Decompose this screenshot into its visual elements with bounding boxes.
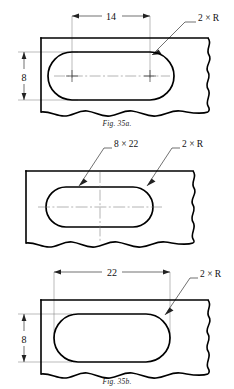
note-2xR-group: 2 × R bbox=[147, 139, 204, 186]
arrowhead-right-icon bbox=[163, 270, 170, 275]
figure-35a-drawing: 14 2 × R 8 bbox=[0, 0, 234, 130]
dimension-22-label: 22 bbox=[107, 267, 117, 278]
arrowhead-bottom-icon bbox=[22, 93, 27, 100]
dimension-8-group: 8 bbox=[17, 314, 72, 362]
leader-arrowhead-icon bbox=[165, 308, 174, 316]
break-line-bottom bbox=[41, 373, 208, 378]
arrowhead-top-icon bbox=[22, 52, 27, 59]
figure-35b-drawing: 8 × 22 2 × R bbox=[0, 130, 234, 258]
plate-outline bbox=[41, 38, 210, 116]
note-2xR-group: 2 × R bbox=[152, 13, 220, 55]
arrowhead-right-icon bbox=[143, 14, 150, 19]
dimension-8-label: 8 bbox=[22, 334, 27, 345]
dimension-22-group: 22 bbox=[54, 265, 170, 338]
break-line-right bbox=[207, 38, 210, 112]
figure-35c: 22 2 × R 8 bbox=[0, 258, 234, 389]
dimension-14-group: 14 bbox=[72, 9, 150, 78]
break-line-bottom bbox=[41, 111, 208, 116]
arrowhead-left-icon bbox=[54, 270, 61, 275]
note-2xR-label: 2 × R bbox=[200, 269, 222, 279]
figure-35a-caption: Fig. 35a. bbox=[0, 119, 234, 128]
note-2xR-label: 2 × R bbox=[182, 139, 204, 149]
dimension-14-label: 14 bbox=[106, 11, 116, 22]
drawing-sheet: 14 2 × R 8 bbox=[0, 0, 234, 389]
note-2xR-label: 2 × R bbox=[198, 13, 220, 23]
slot-obround-path bbox=[54, 314, 170, 362]
plate-outline bbox=[41, 300, 210, 378]
leader-arrowhead-icon bbox=[79, 179, 88, 187]
plate-outline bbox=[26, 171, 195, 247]
break-line-right bbox=[192, 171, 195, 243]
note-2xR-group: 2 × R bbox=[165, 269, 222, 315]
dimension-8-label: 8 bbox=[22, 72, 27, 83]
figure-35b: 8 × 22 2 × R bbox=[0, 130, 234, 258]
note-8x22-label: 8 × 22 bbox=[114, 139, 139, 149]
centerline-group bbox=[38, 172, 162, 242]
arrowhead-top-icon bbox=[22, 314, 27, 321]
note-8x22-group: 8 × 22 bbox=[79, 139, 139, 186]
figure-35c-drawing: 22 2 × R 8 bbox=[0, 258, 234, 389]
leader-arrowhead-icon bbox=[147, 179, 156, 187]
centerline-group bbox=[54, 70, 170, 82]
break-line-right bbox=[207, 300, 210, 374]
slot-outline bbox=[54, 314, 170, 362]
arrowhead-left-icon bbox=[72, 14, 79, 19]
break-line-bottom bbox=[26, 242, 193, 247]
arrowhead-bottom-icon bbox=[22, 355, 27, 362]
figure-35a: 14 2 × R 8 bbox=[0, 0, 234, 130]
